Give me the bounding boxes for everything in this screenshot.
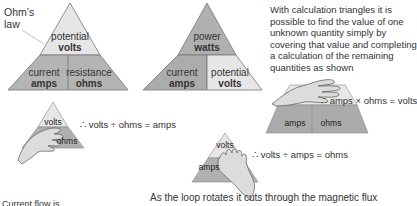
example1-equation: ∴ volts ÷ ohms = amps xyxy=(80,119,176,130)
ohms-top-name: potential xyxy=(48,31,92,42)
power-bottom-right-unit: volts xyxy=(208,78,252,89)
power-top-name: power xyxy=(185,31,229,42)
power-bottom-left-name: current xyxy=(160,67,204,78)
example2-equation: ∴ amps × ohms = volts xyxy=(321,95,417,106)
power-top-unit: watts xyxy=(185,42,229,53)
example3-top-label: volts xyxy=(212,140,238,150)
footer-right-text: As the loop rotates it cuts through the … xyxy=(150,192,377,203)
ohms-bottom-right-name: resistance xyxy=(66,67,112,78)
ohms-bottom-right-unit: ohms xyxy=(66,78,112,89)
ohms-law-label: Ohm’s law xyxy=(4,6,34,30)
footer-left-text: Current flow is xyxy=(2,199,60,206)
example1-bottom-label: ohms xyxy=(52,136,82,146)
ohms-bottom-left-unit: amps xyxy=(22,78,66,89)
example1-top-label: volts xyxy=(40,117,66,127)
description-text: With calculation triangles it is possibl… xyxy=(270,4,417,73)
power-bottom-right-name: potential xyxy=(208,67,252,78)
example3-bottom-label: amps xyxy=(194,162,224,172)
example2-right-label: ohms xyxy=(313,118,349,128)
power-bottom-left-unit: amps xyxy=(160,78,204,89)
ohms-top-unit: volts xyxy=(48,42,92,53)
example3-equation: ∴ volts ÷ amps = ohms xyxy=(252,149,348,160)
ohms-bottom-left-name: current xyxy=(22,67,66,78)
hand-icon xyxy=(18,128,63,164)
example2-left-label: amps xyxy=(278,118,312,128)
example-triangle-1 xyxy=(18,102,84,164)
